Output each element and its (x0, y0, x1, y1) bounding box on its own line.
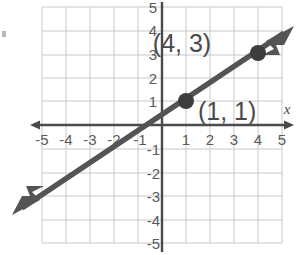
x-tick-label: 4 (254, 131, 262, 148)
point-label-1-1: (1, 1) (198, 97, 256, 125)
x-tick-label: -5 (35, 131, 48, 148)
x-tick-label: 2 (206, 131, 214, 148)
scan-artifact-mark (2, 31, 6, 37)
data-point-1-1[interactable] (178, 93, 194, 109)
y-tick-label: 5 (149, 0, 157, 16)
coordinate-plane-figure: -5 -4 -3 -2 -1 1 2 3 4 5 5 4 3 2 1 -1 -2… (0, 0, 302, 255)
x-tick-label: 1 (182, 131, 190, 148)
graph-svg: -5 -4 -3 -2 -1 1 2 3 4 5 5 4 3 2 1 -1 -2… (0, 0, 302, 255)
y-tick-label: 2 (149, 70, 157, 87)
x-tick-label: -3 (83, 131, 96, 148)
x-tick-label: -1 (133, 131, 146, 148)
y-tick-label: -3 (147, 188, 160, 205)
point-label-4-3: (4, 3) (153, 29, 211, 57)
y-tick-label: -5 (147, 235, 160, 252)
y-tick-label: -1 (147, 141, 160, 158)
x-tick-label: 3 (230, 131, 238, 148)
y-tick-label: -2 (147, 165, 160, 182)
data-point-4-3[interactable] (250, 45, 266, 61)
y-tick-label: -4 (147, 212, 160, 229)
x-axis-label: x (283, 101, 291, 117)
y-tick-label: 1 (149, 93, 157, 110)
x-tick-label: 5 (278, 131, 286, 148)
x-tick-label: -2 (107, 131, 120, 148)
x-tick-label: -4 (59, 131, 72, 148)
